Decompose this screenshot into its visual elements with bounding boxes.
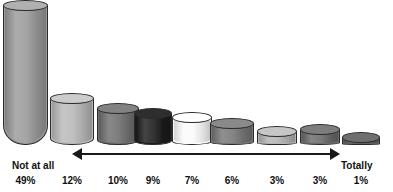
scale-endpoint-labels: Not at all Totally xyxy=(0,160,393,173)
bar-percentage-label: 3% xyxy=(257,174,297,187)
bar-top-ellipse xyxy=(50,93,94,104)
chart-bar xyxy=(257,126,297,145)
bar-shading xyxy=(52,99,92,144)
bar-top-ellipse xyxy=(257,126,297,137)
chart-bar xyxy=(50,93,94,145)
bar-top-ellipse xyxy=(3,0,48,11)
chart-bar xyxy=(300,124,340,145)
scale-label-right: Totally xyxy=(341,160,372,172)
bar-top-ellipse xyxy=(300,124,340,135)
bar-percentage-label: 3% xyxy=(300,174,340,187)
cylinder-bar-chart: Not at all Totally 49%12%10%9%7%6%3%3%1% xyxy=(0,0,393,192)
arrow-line xyxy=(81,153,331,155)
bar-percentage-label: 9% xyxy=(134,174,172,187)
scale-arrow xyxy=(0,147,393,161)
bar-percentage-label: 49% xyxy=(3,174,48,187)
chart-bar xyxy=(210,118,254,145)
chart-bar xyxy=(134,108,172,145)
bar-top-ellipse xyxy=(134,108,172,119)
percentage-labels: 49%12%10%9%7%6%3%3%1% xyxy=(0,174,393,188)
chart-bar xyxy=(97,103,139,145)
bar-percentage-label: 12% xyxy=(50,174,94,187)
bar-shading xyxy=(5,6,46,144)
bar-top-ellipse xyxy=(210,118,254,129)
bar-top-ellipse xyxy=(172,112,212,123)
bar-top-ellipse xyxy=(342,132,380,143)
chart-plot-area xyxy=(0,0,393,145)
bar-body xyxy=(3,6,48,146)
bar-percentage-label: 7% xyxy=(172,174,212,187)
bar-body xyxy=(50,99,94,146)
bar-percentage-label: 10% xyxy=(97,174,139,187)
chart-bar xyxy=(342,132,380,145)
scale-label-left: Not at all xyxy=(12,160,54,172)
arrow-head-right-icon xyxy=(330,148,340,160)
bar-percentage-label: 1% xyxy=(342,174,380,187)
bar-top-ellipse xyxy=(97,103,139,114)
bar-percentage-label: 6% xyxy=(210,174,254,187)
chart-bar xyxy=(172,112,212,145)
chart-bar xyxy=(3,0,48,145)
